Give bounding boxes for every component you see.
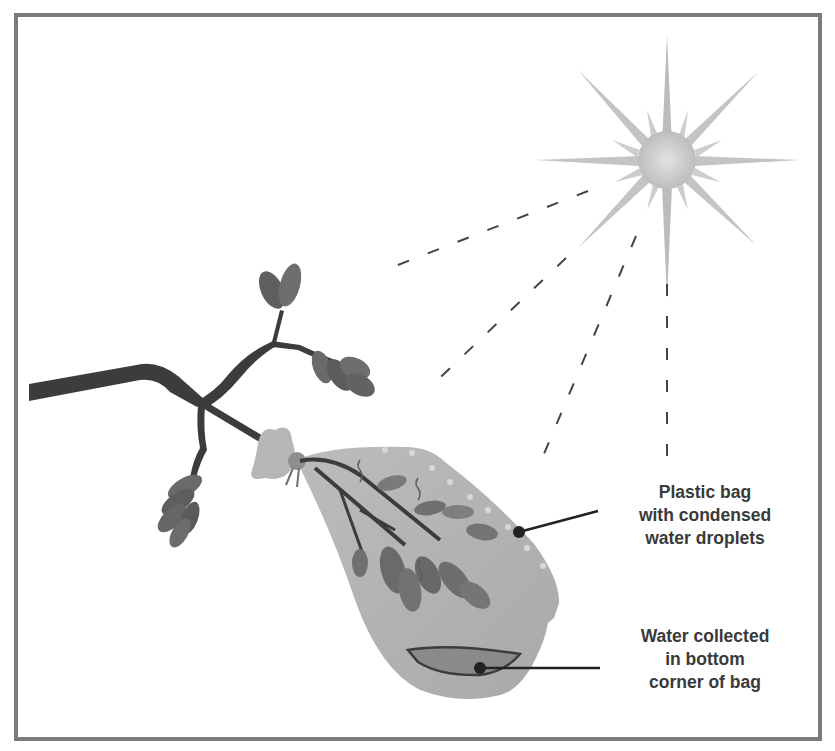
- label-line: Plastic bag: [604, 481, 806, 504]
- label-line: in bottom: [604, 648, 806, 671]
- sun-rays: [380, 191, 667, 470]
- leader-dot-bag: [513, 526, 525, 538]
- leader-dot-water: [474, 662, 486, 674]
- label-line: water droplets: [604, 527, 806, 550]
- sun-ray-3: [538, 236, 636, 468]
- label-plastic-bag: Plastic bag with condensed water droplet…: [604, 481, 806, 550]
- label-line: with condensed: [604, 504, 806, 527]
- sun-icon: [535, 35, 800, 300]
- leader-line-bag: [519, 511, 598, 532]
- label-line: corner of bag: [604, 671, 806, 694]
- sun-ray-2: [428, 258, 566, 389]
- label-line: Water collected: [604, 625, 806, 648]
- label-collected-water: Water collected in bottom corner of bag: [604, 625, 806, 694]
- plastic-bag: [251, 428, 559, 699]
- sun-ray-1: [380, 191, 588, 272]
